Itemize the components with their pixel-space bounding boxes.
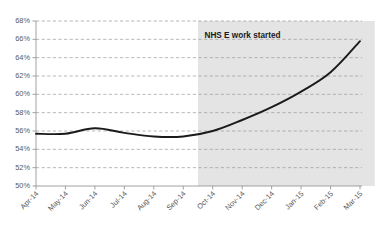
y-axis-tick-label: 68% xyxy=(15,16,30,25)
shaded-region xyxy=(198,21,375,186)
y-axis-tick-label: 60% xyxy=(15,89,30,98)
y-axis-tick-label: 52% xyxy=(15,163,30,172)
y-axis-tick-label: 62% xyxy=(15,71,30,80)
chart-container: 50%52%54%56%58%60%62%64%66%68% Apr-14May… xyxy=(0,0,376,227)
y-axis-tick-label: 56% xyxy=(15,126,30,135)
line-chart: 50%52%54%56%58%60%62%64%66%68% Apr-14May… xyxy=(0,0,376,227)
annotation-label: NHS E work started xyxy=(205,31,281,40)
y-axis-tick-label: 66% xyxy=(15,34,30,43)
y-axis-tick-label: 58% xyxy=(15,108,30,117)
annotation-text: NHS E work started xyxy=(205,31,281,40)
shaded-region-rect xyxy=(198,21,375,186)
y-axis-tick-label: 54% xyxy=(15,144,30,153)
y-axis-tick-label: 64% xyxy=(15,53,30,62)
y-axis-tick-label: 50% xyxy=(15,181,30,190)
